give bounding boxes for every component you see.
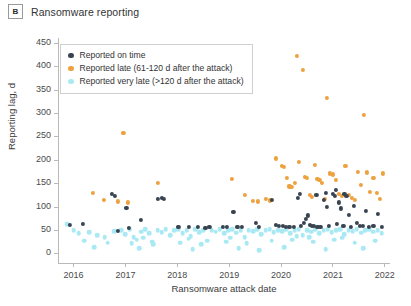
y-tick-mark — [54, 183, 58, 184]
data-point-late — [230, 177, 234, 181]
data-point-very-late — [76, 231, 81, 236]
x-axis-line — [58, 263, 390, 264]
data-point-on-time — [375, 211, 379, 215]
x-tick-mark — [332, 263, 333, 267]
data-point-very-late — [137, 246, 142, 251]
y-tick-mark — [54, 207, 58, 208]
data-point-very-late — [199, 242, 204, 247]
data-point-very-late — [123, 232, 128, 237]
data-point-late — [295, 54, 299, 58]
data-point-very-late — [340, 236, 345, 241]
data-point-late — [334, 178, 338, 182]
data-point-on-time — [231, 210, 235, 214]
data-point-on-time — [296, 196, 300, 200]
data-point-very-late — [164, 227, 169, 232]
data-point-very-late — [259, 232, 264, 237]
legend-swatch-on-time-icon — [68, 53, 74, 59]
data-point-very-late — [224, 239, 229, 244]
y-tick-label: 450 — [36, 37, 51, 47]
data-point-on-time — [302, 221, 306, 225]
y-tick-label: 250 — [36, 130, 51, 140]
data-point-very-late — [141, 236, 146, 241]
data-point-on-time — [324, 190, 328, 194]
data-point-on-time — [113, 194, 117, 198]
data-point-late — [353, 198, 357, 202]
data-point-late — [365, 170, 369, 174]
data-point-late — [292, 181, 296, 185]
legend-item: Reported very late (>120 d after the att… — [68, 75, 244, 88]
data-point-on-time — [306, 213, 310, 217]
data-point-very-late — [129, 241, 134, 246]
data-point-late — [371, 176, 375, 180]
x-tick-mark — [281, 263, 282, 267]
y-tick-label: 300 — [36, 107, 51, 117]
data-point-late — [325, 96, 329, 100]
data-point-very-late — [323, 247, 328, 252]
data-point-very-late — [82, 238, 87, 243]
data-point-very-late — [168, 233, 173, 238]
y-axis-label: Reporting lag, d — [6, 83, 17, 150]
y-tick-mark — [54, 160, 58, 161]
panel-letter-badge: B — [8, 4, 23, 19]
legend-label: Reported on time — [80, 51, 146, 60]
x-tick-label: 2018 — [167, 270, 187, 280]
x-tick-label: 2017 — [115, 270, 135, 280]
data-point-on-time — [81, 222, 85, 226]
data-point-late — [251, 199, 255, 203]
data-point-on-time — [124, 206, 128, 210]
data-point-on-time — [335, 222, 339, 226]
data-point-on-time — [371, 224, 375, 228]
y-tick-mark — [54, 43, 58, 44]
data-point-very-late — [352, 240, 357, 245]
data-point-very-late — [236, 246, 241, 251]
data-point-late — [256, 199, 260, 203]
data-point-late — [313, 163, 317, 167]
data-point-very-late — [257, 248, 262, 253]
legend-item: Reported late (61-120 d after the attack… — [68, 62, 244, 75]
legend-item: Reported on time — [68, 49, 244, 62]
data-point-very-late — [361, 246, 366, 251]
legend-swatch-very-late-icon — [68, 79, 74, 85]
y-tick-label: 350 — [36, 84, 51, 94]
data-point-very-late — [379, 231, 384, 236]
x-axis-label: Ransomware attack date — [58, 283, 390, 294]
data-point-very-late — [294, 234, 299, 239]
data-point-very-late — [95, 233, 100, 238]
x-tick-label: 2020 — [271, 270, 291, 280]
y-tick-label: 100 — [36, 201, 51, 211]
data-point-very-late — [301, 233, 306, 238]
data-point-very-late — [135, 237, 140, 242]
data-point-on-time — [339, 206, 343, 210]
data-point-very-late — [186, 236, 191, 241]
data-point-late — [374, 191, 378, 195]
data-point-very-late — [87, 230, 92, 235]
data-point-very-late — [102, 235, 107, 240]
data-point-late — [102, 198, 106, 202]
y-axis-line — [58, 38, 59, 264]
data-point-late — [289, 185, 293, 189]
data-point-on-time — [314, 193, 318, 197]
y-tick-mark — [54, 66, 58, 67]
data-point-on-time — [187, 225, 191, 229]
chart-legend: Reported on timeReported late (61-120 d … — [60, 44, 253, 94]
data-point-on-time — [325, 205, 329, 209]
data-point-very-late — [92, 245, 97, 250]
panel-header: B Ransomware reporting — [8, 4, 139, 19]
y-tick-label: 400 — [36, 60, 51, 70]
x-tick-mark — [384, 263, 385, 267]
page-title: Ransomware reporting — [31, 6, 139, 18]
data-point-very-late — [311, 239, 316, 244]
data-point-very-late — [147, 231, 152, 236]
data-point-late — [343, 164, 347, 168]
data-point-very-late — [178, 240, 183, 245]
data-point-on-time — [346, 212, 350, 216]
data-point-on-time — [240, 225, 244, 229]
data-point-late — [121, 131, 125, 135]
legend-label: Reported very late (>120 d after the att… — [80, 77, 244, 86]
y-tick-label: 200 — [36, 154, 51, 164]
data-point-late — [319, 181, 323, 185]
data-point-on-time — [196, 225, 200, 229]
chart-panel: B Ransomware reporting Reporting lag, d … — [0, 0, 411, 306]
x-tick-mark — [73, 263, 74, 267]
data-point-on-time — [327, 224, 331, 228]
